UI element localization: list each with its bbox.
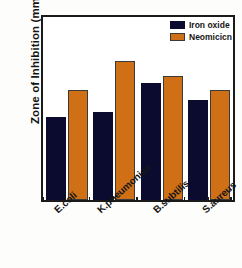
bar-e-coli-iron-oxide [46,117,66,200]
bar-e-coli-neomicicn [68,90,88,200]
chart-legend: Iron oxide Neomicicn [168,18,234,44]
x-axis-category-labels: E.coliK.pneumoniaeB.subtilisS.aureus [0,202,242,268]
legend-item-neomicicn: Neomicicn [170,31,232,42]
legend-swatch-icon-iron-oxide [170,21,185,29]
legend-swatch-icon-neomicicn [170,33,185,41]
legend-label-iron-oxide: Iron oxide [189,20,230,30]
bar-b-subtilis-iron-oxide [141,83,161,200]
y-axis-title: Zone of Inhibition (mm) [29,0,41,154]
bar-k-pneumoniae-iron-oxide [93,112,113,200]
bar-chart-figure: Zone of Inhibition (mm) 0510152025 E.col… [0,0,242,268]
legend-label-neomicicn: Neomicicn [189,32,232,42]
legend-item-iron-oxide: Iron oxide [170,19,232,30]
